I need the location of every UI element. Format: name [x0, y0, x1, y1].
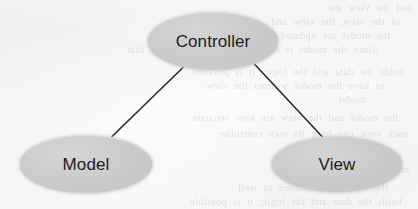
- showthrough-line: the model and the view are kept separate: [14, 112, 398, 123]
- showthrough-line: to have the model without the view: [12, 80, 384, 91]
- node-model[interactable]: Model: [20, 136, 152, 193]
- edge-controller-model: [112, 68, 183, 137]
- showthrough-line: and the view are: [12, 2, 412, 13]
- edge-controller-view: [253, 62, 323, 137]
- showthrough-line: model: [16, 94, 366, 105]
- showthrough-line: holds the data and the logic, it is poss…: [12, 196, 402, 207]
- node-view[interactable]: View: [272, 137, 402, 192]
- node-view-label: View: [319, 155, 356, 175]
- node-controller[interactable]: Controller: [148, 13, 278, 70]
- node-model-label: Model: [63, 155, 110, 175]
- scanned-page: and the view are of the view, the view a…: [0, 0, 418, 209]
- node-controller-label: Controller: [176, 32, 251, 52]
